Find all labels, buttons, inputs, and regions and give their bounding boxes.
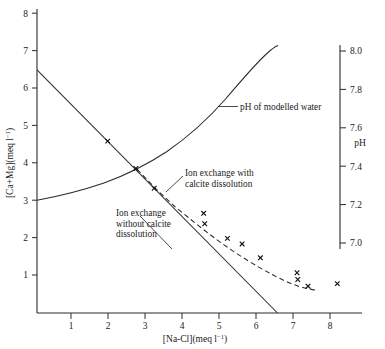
annotation-line: Ion exchange [116, 208, 166, 218]
bottom-tick-label: 4 [180, 321, 185, 331]
scatter-point [295, 270, 300, 275]
scatter-point [306, 284, 311, 289]
right-tick-label: 7.0 [350, 238, 362, 248]
chart-canvas: 1 2 3 4 5 6 7 8 [Ca+Mg](meq l−1) 1 [0, 0, 385, 349]
bottom-tick-label: 1 [69, 321, 74, 331]
bottom-tick-label: 8 [328, 321, 333, 331]
right-axis-title: pH [354, 138, 366, 148]
bottom-axis-ticks: 1 2 3 4 5 6 7 8 [69, 313, 333, 331]
left-tick-label: 4 [23, 158, 28, 168]
right-tick-label: 7.4 [350, 162, 362, 172]
leader-with-calcite-label [166, 176, 183, 192]
axis-lines [37, 9, 362, 313]
annotation-line: without calcite [116, 219, 171, 229]
bottom-tick-label: 7 [291, 321, 296, 331]
bottom-tick-label: 2 [106, 321, 111, 331]
bottom-tick-label: 5 [217, 321, 222, 331]
left-tick-label: 2 [23, 233, 28, 243]
left-axis-title-tail: ) [5, 128, 16, 131]
left-axis-title-exponent: −1 [4, 131, 11, 138]
annotation-ion-exchange-with-calcite: Ion exchange with calcite dissolution [185, 168, 254, 189]
bottom-tick-label: 3 [143, 321, 148, 331]
left-tick-label: 1 [23, 270, 28, 280]
annotation-line: dissolution [116, 229, 157, 239]
scatter-point [202, 221, 207, 226]
left-tick-label: 3 [23, 196, 28, 206]
left-tick-label: 6 [23, 83, 28, 93]
left-axis-ticks: 1 2 3 4 5 6 7 8 [23, 9, 37, 281]
scatter-point [240, 242, 245, 247]
annotation-ion-exchange-without-calcite: Ion exchange without calcite dissolution [116, 208, 171, 239]
bottom-axis-title-exponent: −1 [217, 333, 224, 340]
scatter-point [335, 281, 340, 286]
left-tick-label: 7 [23, 46, 28, 56]
svg-text:[Ca+Mg](meq l−1): [Ca+Mg](meq l−1) [4, 128, 16, 198]
left-axis-title-main: [Ca+Mg](meq l [5, 138, 16, 198]
annotation-ph-of-modelled-water: pH of modelled water [240, 102, 322, 112]
right-tick-label: 8.0 [350, 46, 362, 56]
scatter-point [258, 255, 263, 260]
right-tick-label: 7.6 [350, 123, 362, 133]
bottom-axis-title-main: [Na-Cl](meq l [163, 334, 217, 345]
annotation-line: Ion exchange with [185, 168, 254, 178]
left-tick-label: 5 [23, 121, 28, 131]
chart-figure: 1 2 3 4 5 6 7 8 [Ca+Mg](meq l−1) 1 [0, 0, 385, 349]
bottom-tick-label: 6 [254, 321, 259, 331]
left-axis-title: [Ca+Mg](meq l−1) [4, 128, 16, 198]
annotation-line: calcite dissolution [185, 179, 253, 189]
bottom-axis-title-tail: ) [224, 334, 227, 345]
scatter-point [105, 139, 110, 144]
scatter-point [295, 277, 300, 282]
right-tick-label: 7.8 [350, 85, 362, 95]
bottom-axis-title: [Na-Cl](meq l−1) [163, 333, 227, 345]
right-tick-label: 7.2 [350, 200, 362, 210]
scatter-point [225, 236, 230, 241]
scatter-point [201, 211, 206, 216]
left-tick-label: 8 [23, 9, 28, 19]
